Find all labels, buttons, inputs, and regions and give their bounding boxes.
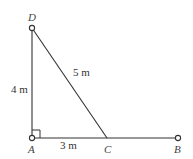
label-C: C: [104, 143, 112, 155]
right-triangle-diagram: D A C B 4 m 5 m 3 m: [0, 0, 193, 159]
label-D: D: [27, 11, 36, 23]
length-AD: 4 m: [11, 83, 28, 95]
point-B: [175, 135, 180, 140]
label-A: A: [27, 143, 35, 155]
label-B: B: [174, 143, 181, 155]
length-AC: 3 m: [60, 139, 77, 151]
point-A: [29, 135, 34, 140]
segment-DC: [32, 28, 107, 138]
point-D: [29, 25, 34, 30]
length-DC: 5 m: [73, 66, 90, 78]
